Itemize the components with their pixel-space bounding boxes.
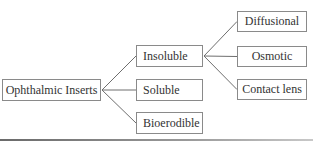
connector-root-to-bioerodible bbox=[102, 90, 136, 123]
node-diffusional: Diffusional bbox=[237, 11, 307, 32]
connector-insoluble-to-contact bbox=[204, 56, 237, 90]
node-contact-lens: Contact lens bbox=[237, 79, 307, 100]
bottom-divider bbox=[0, 139, 313, 141]
node-bioerodible: Bioerodible bbox=[136, 112, 203, 134]
connector-insoluble-to-osmotic bbox=[204, 56, 237, 57]
node-soluble: Soluble bbox=[136, 79, 203, 101]
node-osmotic: Osmotic bbox=[237, 46, 307, 67]
node-ophthalmic-inserts: Ophthalmic Inserts bbox=[2, 79, 101, 101]
connector-root-to-insoluble bbox=[102, 56, 136, 90]
ophthalmic-inserts-diagram: Ophthalmic Inserts Insoluble Soluble Bio… bbox=[0, 0, 313, 141]
node-insoluble: Insoluble bbox=[136, 45, 203, 67]
connector-insoluble-to-diffusional bbox=[204, 22, 237, 57]
